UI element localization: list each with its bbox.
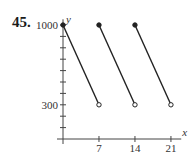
y-tick-label: 1000 xyxy=(36,19,59,31)
line-segment xyxy=(63,25,99,105)
open-endpoint xyxy=(133,103,137,107)
y-tick-label: 300 xyxy=(42,99,59,111)
x-axis-label: x xyxy=(181,126,187,138)
x-tick-label: 7 xyxy=(96,142,102,154)
closed-endpoint xyxy=(97,23,101,27)
line-segment xyxy=(99,25,135,105)
closed-endpoint xyxy=(133,23,137,27)
ticks xyxy=(60,25,171,142)
axes: xy xyxy=(57,13,187,144)
closed-endpoint xyxy=(61,23,65,27)
x-tick-label: 14 xyxy=(129,142,141,154)
sawtooth-chart: xy 714213001000 xyxy=(0,0,190,154)
series xyxy=(61,23,173,107)
y-axis-label: y xyxy=(65,13,71,25)
open-endpoint xyxy=(97,103,101,107)
line-segment xyxy=(135,25,171,105)
open-endpoint xyxy=(169,103,173,107)
tick-labels: 714213001000 xyxy=(36,19,176,154)
x-tick-label: 21 xyxy=(165,142,176,154)
